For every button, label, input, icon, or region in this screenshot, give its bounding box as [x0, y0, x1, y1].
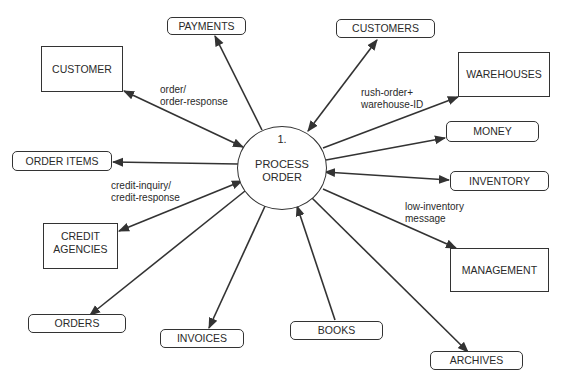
flow-label-order-line1: order/: [160, 84, 228, 96]
flow-order-items: [113, 162, 238, 164]
flow-money: [326, 138, 445, 160]
process-number: 1.: [238, 133, 326, 146]
store-archives[interactable]: ARCHIVES: [430, 351, 523, 370]
flow-label-credit-line1: credit-inquiry/: [111, 180, 180, 192]
flow-label-lowinv-line2: message: [405, 213, 464, 225]
flow-payments: [215, 36, 262, 130]
store-orders[interactable]: ORDERS: [28, 314, 126, 333]
entity-customer-label: CUSTOMER: [52, 63, 112, 76]
flow-label-rush-order: rush-order+ warehouse-ID: [361, 87, 423, 111]
process-order[interactable]: 1. PROCESS ORDER: [237, 126, 327, 210]
store-customers-label: CUSTOMERS: [352, 22, 419, 35]
flow-label-order: order/ order-response: [160, 84, 228, 108]
flow-customers: [308, 40, 377, 131]
store-money[interactable]: MONEY: [446, 121, 539, 142]
entity-management-label: MANAGEMENT: [462, 264, 537, 277]
process-name-line2: ORDER: [262, 171, 302, 184]
flow-label-low-inventory: low-inventory message: [405, 201, 464, 225]
flow-books: [297, 206, 335, 320]
store-books[interactable]: BOOKS: [290, 321, 383, 340]
process-name-line1: PROCESS: [255, 158, 309, 171]
store-money-label: MONEY: [473, 125, 512, 138]
store-customers[interactable]: CUSTOMERS: [336, 19, 435, 38]
entity-credit-agencies-line2: AGENCIES: [53, 243, 107, 256]
flow-label-rush-line2: warehouse-ID: [361, 99, 423, 111]
entity-credit-agencies[interactable]: CREDIT AGENCIES: [43, 223, 118, 269]
store-payments-label: PAYMENTS: [178, 20, 234, 33]
store-orders-label: ORDERS: [55, 317, 100, 330]
flow-invoices: [209, 204, 266, 328]
entity-customer[interactable]: CUSTOMER: [41, 46, 123, 92]
entity-warehouses-label: WAREHOUSES: [466, 68, 541, 81]
entity-management[interactable]: MANAGEMENT: [450, 248, 549, 292]
store-books-label: BOOKS: [318, 324, 355, 337]
entity-credit-agencies-line1: CREDIT: [61, 230, 100, 243]
flow-inventory: [325, 172, 449, 180]
flow-label-credit: credit-inquiry/ credit-response: [111, 180, 180, 204]
store-inventory-label: INVENTORY: [469, 175, 530, 188]
store-order-items-label: ORDER ITEMS: [26, 155, 99, 168]
store-inventory[interactable]: INVENTORY: [450, 171, 549, 191]
store-order-items[interactable]: ORDER ITEMS: [12, 151, 112, 171]
entity-warehouses[interactable]: WAREHOUSES: [458, 52, 550, 97]
store-archives-label: ARCHIVES: [450, 354, 504, 367]
flow-label-rush-line1: rush-order+: [361, 87, 423, 99]
flow-label-order-line2: order-response: [160, 96, 228, 108]
store-invoices[interactable]: INVOICES: [160, 329, 244, 348]
store-payments[interactable]: PAYMENTS: [167, 17, 246, 35]
flow-label-credit-line2: credit-response: [111, 192, 180, 204]
flow-label-lowinv-line1: low-inventory: [405, 201, 464, 213]
store-invoices-label: INVOICES: [177, 332, 227, 345]
